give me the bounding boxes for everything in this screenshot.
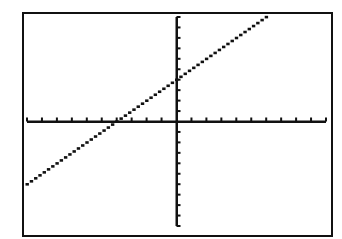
line-pixel (256, 22, 259, 25)
line-pixel (213, 52, 216, 55)
y-tick (177, 141, 181, 143)
y-tick (177, 89, 181, 91)
line-pixel (243, 31, 246, 34)
line-pixel (145, 99, 148, 102)
line-pixel (205, 58, 208, 61)
y-tick (177, 215, 181, 217)
y-tick (177, 100, 181, 102)
line-pixel (132, 108, 135, 111)
line-pixel (252, 25, 255, 28)
line-pixel (68, 153, 71, 156)
line-pixel (149, 96, 152, 99)
line-pixel (235, 37, 238, 40)
line-pixel (72, 150, 75, 153)
y-tick (177, 68, 181, 70)
line-pixel (60, 159, 63, 162)
line-pixel (184, 73, 187, 76)
line-pixel (196, 64, 199, 67)
line-pixel (171, 81, 174, 84)
line-pixel (179, 76, 182, 79)
line-pixel (222, 46, 225, 49)
axes (26, 16, 327, 227)
line-pixel (111, 123, 114, 126)
x-tick (295, 118, 297, 122)
line-pixel (98, 132, 101, 135)
line-pixel (34, 177, 37, 180)
line-pixel (47, 168, 50, 171)
x-tick (131, 118, 133, 122)
line-pixel (90, 138, 93, 141)
line-pixel (231, 40, 234, 43)
x-tick (250, 118, 252, 122)
y-tick (177, 58, 181, 60)
line-pixel (162, 87, 165, 90)
line-pixel (107, 126, 110, 129)
line-pixel (38, 174, 41, 177)
line-pixel (154, 93, 157, 96)
line-pixel (158, 90, 161, 93)
y-tick (177, 183, 181, 185)
line-pixel (26, 183, 29, 186)
x-tick (310, 118, 312, 122)
x-tick (26, 118, 28, 122)
line-pixel (85, 141, 88, 144)
x-tick (280, 118, 282, 122)
y-tick (177, 204, 181, 206)
x-tick (190, 118, 192, 122)
line-pixel (124, 114, 127, 117)
line-pixel (260, 19, 263, 22)
line-pixel (141, 102, 144, 105)
line-pixel (81, 144, 84, 147)
line-pixel (188, 70, 191, 73)
line-pixel (226, 43, 229, 46)
line-pixel (51, 165, 54, 168)
line-pixel (115, 120, 118, 123)
line-pixel (94, 135, 97, 138)
line-pixel (209, 55, 212, 58)
x-tick (265, 118, 267, 122)
graph-plot (0, 0, 342, 239)
line-pixel (218, 49, 221, 52)
line-pixel (43, 171, 46, 174)
x-tick (101, 118, 103, 122)
line-pixel (64, 156, 67, 159)
x-tick (41, 118, 43, 122)
x-tick (161, 118, 163, 122)
y-tick (177, 26, 181, 28)
x-tick (205, 118, 207, 122)
y-tick (177, 16, 181, 18)
y-tick (177, 173, 181, 175)
y-tick (177, 152, 181, 154)
y-tick (177, 131, 181, 133)
line-pixel (265, 16, 268, 19)
line-pixel (55, 162, 58, 165)
x-tick (325, 118, 327, 122)
x-tick (86, 118, 88, 122)
line-pixel (201, 61, 204, 64)
x-tick (56, 118, 58, 122)
y-tick (177, 162, 181, 164)
x-tick (71, 118, 73, 122)
y-tick (177, 47, 181, 49)
line-pixel (239, 34, 242, 37)
y-tick (177, 37, 181, 39)
y-tick (177, 194, 181, 196)
line-pixel (175, 79, 178, 82)
line-pixel (119, 117, 122, 120)
y-tick (177, 225, 181, 227)
function-line (26, 16, 269, 186)
line-pixel (248, 28, 251, 31)
line-pixel (30, 180, 33, 183)
line-pixel (128, 111, 131, 114)
x-tick (235, 118, 237, 122)
line-pixel (192, 67, 195, 70)
x-tick (146, 118, 148, 122)
x-tick (220, 118, 222, 122)
line-pixel (102, 129, 105, 132)
line-pixel (77, 147, 80, 150)
y-tick (177, 110, 181, 112)
line-pixel (137, 105, 140, 108)
line-pixel (166, 84, 169, 87)
